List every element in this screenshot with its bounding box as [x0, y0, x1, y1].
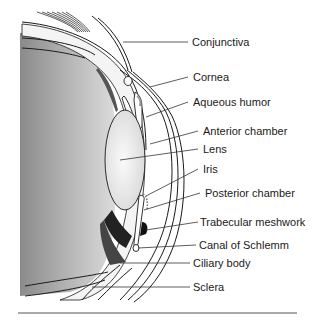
- label-anterior-chamber: Anterior chamber: [203, 125, 287, 137]
- conjunctival-gland: [124, 77, 132, 86]
- label-cornea: Cornea: [193, 71, 229, 83]
- eye-anatomy-diagram: [0, 0, 313, 322]
- label-trabecular-meshwork: Trabecular meshwork: [200, 216, 305, 228]
- label-conjunctiva: Conjunctiva: [192, 36, 249, 48]
- label-lens: Lens: [203, 143, 227, 155]
- label-canal-of-schlemm: Canal of Schlemm: [199, 239, 289, 251]
- label-sclera: Sclera: [193, 281, 224, 293]
- label-posterior-chamber: Posterior chamber: [205, 187, 295, 199]
- label-ciliary-body: Ciliary body: [193, 257, 250, 269]
- label-iris: Iris: [203, 163, 218, 175]
- label-aqueous-humor: Aqueous humor: [193, 96, 271, 108]
- lens-shape: [105, 110, 145, 210]
